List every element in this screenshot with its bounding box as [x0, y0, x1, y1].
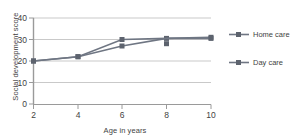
x-tick-label-10: 10 [206, 110, 216, 120]
line-chart-plot: 40 30 20 10 0 2 4 6 8 10 [0, 0, 301, 140]
gridlines [33, 18, 211, 83]
x-tick-label-2: 2 [31, 110, 36, 120]
legend-label-day-care: Day care [253, 58, 283, 67]
y-tick-label-0: 0 [22, 99, 27, 109]
x-axis [33, 105, 211, 110]
series-day-care-marker [120, 37, 125, 42]
y-axis-title: Social development score [11, 9, 20, 105]
legend-label-home-care: Home care [253, 30, 290, 39]
x-axis-title: Age in years [32, 126, 218, 135]
legend-marker-day-care [229, 58, 249, 67]
series-home-care-marker [209, 36, 214, 41]
x-tick-label-6: 6 [120, 110, 125, 120]
chart-figure: 40 30 20 10 0 2 4 6 8 10 [0, 0, 301, 140]
x-tick-labels: 2 4 6 8 10 [31, 110, 216, 120]
series-home-care-marker [120, 44, 125, 49]
legend-item-home-care[interactable]: Home care [229, 30, 290, 39]
x-tick-label-4: 4 [76, 110, 81, 120]
x-tick-label-8: 8 [164, 110, 169, 120]
series-home-care-marker [164, 41, 169, 46]
series-home-care-marker [76, 54, 81, 59]
legend-marker-home-care [229, 30, 249, 39]
legend-item-day-care[interactable]: Day care [229, 58, 283, 67]
series-home-care-marker [31, 59, 36, 64]
